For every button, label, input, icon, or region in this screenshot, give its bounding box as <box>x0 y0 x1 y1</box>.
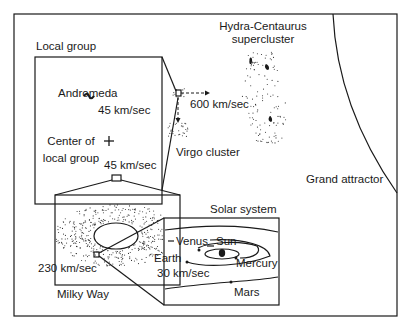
milky-way-star-dot <box>70 236 71 237</box>
hydra-cluster-dot <box>273 67 274 68</box>
milky-way-star-dot <box>80 238 81 239</box>
milky-way-star-dot <box>66 243 67 244</box>
milky-way-star-dot <box>79 236 80 237</box>
hydra-cluster-dot <box>260 141 261 142</box>
virgo-cluster-dot <box>186 131 187 132</box>
milky-way-star-dot <box>88 235 89 236</box>
milky-way-star-dot <box>148 236 149 237</box>
hydra-cluster-dot <box>246 96 247 97</box>
virgo-cluster-dot <box>170 123 171 124</box>
milky-way-star-dot <box>120 212 121 213</box>
hydra-cluster-dot <box>282 123 283 124</box>
milky-way-star-dot <box>148 241 149 242</box>
milky-way-star-dot <box>90 222 91 223</box>
milky-way-star-dot <box>154 218 155 219</box>
milky-way-star-dot <box>134 260 135 261</box>
milky-way-star-dot <box>94 245 95 246</box>
milky-way-star-dot <box>152 241 153 242</box>
virgo-cluster-dot <box>172 131 173 132</box>
hydra-cluster-dot <box>260 129 261 130</box>
milky-way-star-dot <box>81 230 82 231</box>
milky-way-star-dot <box>153 217 154 218</box>
milky-way-star-dot <box>139 241 140 242</box>
milky-way-star-dot <box>99 218 100 219</box>
hydra-cluster-dot <box>267 69 268 70</box>
milky-way-star-dot <box>95 210 96 211</box>
hydra-cluster-dot <box>276 106 277 107</box>
virgo-cluster-dot <box>186 136 187 137</box>
virgo-cluster-dot <box>175 124 176 125</box>
milky-way-star-dot <box>91 243 92 244</box>
milky-way-star-dot <box>131 222 132 223</box>
virgo-cluster-dot <box>170 131 171 132</box>
hydra-cluster-dot <box>267 142 268 143</box>
milky-way-star-dot <box>85 255 86 256</box>
milky-way-star-dot <box>143 219 144 220</box>
hydra-cluster-dot <box>277 116 278 117</box>
milky-way-star-dot <box>136 259 137 260</box>
milky-way-star-dot <box>162 235 163 236</box>
milky-way-star-dot <box>61 238 62 239</box>
virgo-cluster-dot <box>174 135 175 136</box>
hydra-cluster-dot <box>269 137 270 138</box>
hydra-cluster-dot <box>272 80 273 81</box>
hydra-cluster-dot <box>277 123 278 124</box>
milky-way-star-dot <box>146 227 147 228</box>
milky-way-star-dot <box>96 249 97 250</box>
sun-galactic-speed-label: 230 km/sec <box>38 262 97 275</box>
virgo-cluster-dot <box>182 126 183 127</box>
milky-way-star-dot <box>112 263 113 264</box>
milky-way-star-dot <box>93 250 94 251</box>
milky-way-star-dot <box>90 225 91 226</box>
milky-way-star-dot <box>144 207 145 208</box>
hydra-cluster-dot <box>257 127 258 128</box>
milky-way-star-dot <box>154 214 155 215</box>
milky-way-star-dot <box>82 227 83 228</box>
milky-way-star-dot <box>75 243 76 244</box>
milky-way-star-dot <box>90 230 91 231</box>
milky-way-star-dot <box>142 248 143 249</box>
milky-way-star-dot <box>100 247 101 248</box>
milky-way-star-dot <box>138 248 139 249</box>
milky-way-star-dot <box>89 219 90 220</box>
milky-way-star-dot <box>87 244 88 245</box>
milky-way-star-dot <box>94 223 95 224</box>
milky-way-star-dot <box>129 256 130 257</box>
hydra-cluster-dot <box>256 96 257 97</box>
milky-way-star-dot <box>81 238 82 239</box>
hydra-cluster-dot <box>259 133 260 134</box>
milky-way-star-dot <box>85 220 86 221</box>
milky-way-star-dot <box>74 227 75 228</box>
hydra-cluster-dot <box>267 84 268 85</box>
milky-way-star-dot <box>124 255 125 256</box>
milky-way-star-dot <box>123 208 124 209</box>
hydra-cluster-dot <box>252 123 253 124</box>
mars-label: Mars <box>234 286 260 299</box>
milky-way-star-dot <box>107 250 108 251</box>
hydra-cluster-dot <box>279 116 280 117</box>
milky-way-star-dot <box>146 249 147 250</box>
virgo-cluster-dot <box>185 129 186 130</box>
hydra-cluster-dot <box>245 80 246 81</box>
milky-way-star-dot <box>58 242 59 243</box>
milky-way-star-dot <box>73 243 74 244</box>
milky-way-star-dot <box>65 218 66 219</box>
milky-way-star-dot <box>86 209 87 210</box>
milky-way-star-dot <box>121 259 122 260</box>
milky-way-star-dot <box>122 217 123 218</box>
venus-body <box>198 249 201 252</box>
milky-way-star-dot <box>149 255 150 256</box>
milky-way-star-dot <box>121 261 122 262</box>
hydra-cluster-dot <box>262 139 263 140</box>
hydra-cluster-dot <box>270 116 271 117</box>
milky-way-star-dot <box>103 210 104 211</box>
milky-way-star-dot <box>104 258 105 259</box>
milky-way-star-dot <box>122 258 123 259</box>
virgo-cluster-dot <box>184 133 185 134</box>
milky-way-star-dot <box>82 232 83 233</box>
milky-way-star-dot <box>108 221 109 222</box>
virgo-local-dot <box>182 89 183 90</box>
milky-way-star-dot <box>109 254 110 255</box>
milky-way-star-dot <box>94 243 95 244</box>
milky-way-star-dot <box>152 247 153 248</box>
